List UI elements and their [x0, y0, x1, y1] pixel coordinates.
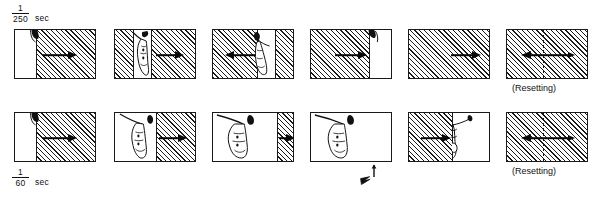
time-unit-label: sec [35, 178, 49, 187]
frame-t4 [310, 29, 392, 79]
travel-arrow-right [335, 51, 367, 59]
shutter-speed-label-250: 1 250 sec [12, 4, 49, 23]
frame-b5 [408, 112, 490, 162]
reset-arrow-bidirectional [521, 51, 575, 59]
fraction-numerator: 1 [16, 4, 25, 13]
travel-arrow-left [225, 51, 255, 59]
shutter-speed-label-60: 1 60 sec [12, 168, 49, 187]
frame-b1 [14, 112, 96, 162]
fraction-denominator: 250 [13, 14, 28, 23]
fraction-250: 1 250 [12, 4, 29, 23]
frame-t1 [14, 29, 96, 79]
caption-resetting-bottom: (Resetting) [512, 166, 556, 176]
frame-b6 [506, 112, 588, 162]
frame-b2 [114, 112, 196, 162]
frame-t3 [212, 29, 294, 79]
fraction-denominator: 60 [16, 178, 26, 187]
reset-arrow-bidirectional [521, 134, 575, 142]
subject-figure-icon [311, 113, 391, 161]
travel-arrow-right [421, 134, 451, 142]
fraction-numerator: 1 [16, 168, 25, 177]
shutter-sequence-diagram: 1 250 sec 1 60 sec [0, 0, 602, 199]
travel-arrow-right [279, 134, 294, 142]
travel-arrow-right [451, 51, 481, 59]
caption-resetting-top: (Resetting) [512, 83, 556, 93]
frame-t5 [408, 29, 490, 79]
travel-arrow-right [43, 134, 77, 142]
fraction-60: 1 60 [12, 168, 29, 187]
frame-b3 [212, 112, 294, 162]
lightning-bolt-icon [358, 163, 388, 187]
travel-arrow-right [159, 134, 187, 142]
time-unit-label: sec [35, 14, 49, 23]
travel-arrow-right [43, 51, 77, 59]
travel-arrow-right [156, 51, 184, 59]
frame-t6 [506, 29, 588, 79]
flash-sync-mark [358, 163, 388, 187]
frame-t2 [114, 29, 196, 79]
frame-b4 [310, 112, 392, 162]
